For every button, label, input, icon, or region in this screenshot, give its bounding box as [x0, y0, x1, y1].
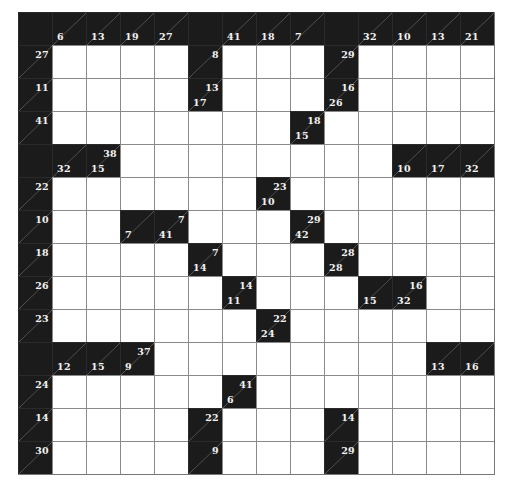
entry-cell[interactable]: [460, 111, 494, 144]
entry-cell[interactable]: [426, 243, 460, 276]
entry-cell[interactable]: [392, 408, 426, 441]
entry-cell[interactable]: [222, 408, 256, 441]
entry-cell[interactable]: [222, 144, 256, 177]
entry-cell[interactable]: [154, 177, 188, 210]
entry-cell[interactable]: [460, 78, 494, 111]
entry-cell[interactable]: [324, 111, 358, 144]
entry-cell[interactable]: [86, 78, 120, 111]
entry-cell[interactable]: [256, 375, 290, 408]
entry-cell[interactable]: [120, 111, 154, 144]
entry-cell[interactable]: [358, 408, 392, 441]
entry-cell[interactable]: [358, 210, 392, 243]
entry-cell[interactable]: [358, 144, 392, 177]
entry-cell[interactable]: [426, 45, 460, 78]
entry-cell[interactable]: [188, 177, 222, 210]
entry-cell[interactable]: [86, 243, 120, 276]
entry-cell[interactable]: [460, 276, 494, 309]
entry-cell[interactable]: [460, 243, 494, 276]
entry-cell[interactable]: [324, 144, 358, 177]
entry-cell[interactable]: [392, 78, 426, 111]
entry-cell[interactable]: [358, 111, 392, 144]
entry-cell[interactable]: [426, 210, 460, 243]
entry-cell[interactable]: [120, 276, 154, 309]
entry-cell[interactable]: [52, 276, 86, 309]
entry-cell[interactable]: [358, 45, 392, 78]
entry-cell[interactable]: [392, 111, 426, 144]
entry-cell[interactable]: [154, 441, 188, 474]
entry-cell[interactable]: [120, 309, 154, 342]
entry-cell[interactable]: [52, 177, 86, 210]
entry-cell[interactable]: [290, 342, 324, 375]
entry-cell[interactable]: [426, 309, 460, 342]
entry-cell[interactable]: [86, 276, 120, 309]
entry-cell[interactable]: [154, 276, 188, 309]
entry-cell[interactable]: [154, 243, 188, 276]
entry-cell[interactable]: [120, 78, 154, 111]
entry-cell[interactable]: [154, 111, 188, 144]
entry-cell[interactable]: [290, 408, 324, 441]
entry-cell[interactable]: [188, 375, 222, 408]
entry-cell[interactable]: [256, 111, 290, 144]
entry-cell[interactable]: [290, 243, 324, 276]
entry-cell[interactable]: [426, 375, 460, 408]
entry-cell[interactable]: [86, 177, 120, 210]
entry-cell[interactable]: [52, 111, 86, 144]
entry-cell[interactable]: [290, 309, 324, 342]
entry-cell[interactable]: [290, 276, 324, 309]
entry-cell[interactable]: [256, 441, 290, 474]
entry-cell[interactable]: [392, 342, 426, 375]
entry-cell[interactable]: [324, 309, 358, 342]
entry-cell[interactable]: [120, 408, 154, 441]
entry-cell[interactable]: [460, 309, 494, 342]
entry-cell[interactable]: [460, 210, 494, 243]
entry-cell[interactable]: [120, 45, 154, 78]
entry-cell[interactable]: [52, 243, 86, 276]
entry-cell[interactable]: [324, 276, 358, 309]
entry-cell[interactable]: [392, 309, 426, 342]
entry-cell[interactable]: [154, 342, 188, 375]
entry-cell[interactable]: [358, 78, 392, 111]
entry-cell[interactable]: [426, 111, 460, 144]
entry-cell[interactable]: [290, 45, 324, 78]
entry-cell[interactable]: [222, 342, 256, 375]
entry-cell[interactable]: [154, 78, 188, 111]
entry-cell[interactable]: [290, 441, 324, 474]
entry-cell[interactable]: [358, 309, 392, 342]
entry-cell[interactable]: [188, 309, 222, 342]
entry-cell[interactable]: [256, 342, 290, 375]
entry-cell[interactable]: [222, 309, 256, 342]
entry-cell[interactable]: [120, 144, 154, 177]
entry-cell[interactable]: [426, 177, 460, 210]
entry-cell[interactable]: [426, 408, 460, 441]
entry-cell[interactable]: [392, 243, 426, 276]
entry-cell[interactable]: [392, 441, 426, 474]
entry-cell[interactable]: [188, 342, 222, 375]
entry-cell[interactable]: [52, 210, 86, 243]
entry-cell[interactable]: [392, 45, 426, 78]
entry-cell[interactable]: [256, 78, 290, 111]
entry-cell[interactable]: [460, 441, 494, 474]
entry-cell[interactable]: [154, 45, 188, 78]
entry-cell[interactable]: [154, 144, 188, 177]
entry-cell[interactable]: [460, 375, 494, 408]
entry-cell[interactable]: [324, 375, 358, 408]
entry-cell[interactable]: [290, 177, 324, 210]
entry-cell[interactable]: [188, 276, 222, 309]
entry-cell[interactable]: [290, 144, 324, 177]
entry-cell[interactable]: [52, 78, 86, 111]
entry-cell[interactable]: [358, 177, 392, 210]
entry-cell[interactable]: [52, 45, 86, 78]
entry-cell[interactable]: [154, 375, 188, 408]
entry-cell[interactable]: [120, 243, 154, 276]
entry-cell[interactable]: [154, 408, 188, 441]
entry-cell[interactable]: [52, 309, 86, 342]
entry-cell[interactable]: [256, 210, 290, 243]
entry-cell[interactable]: [392, 210, 426, 243]
entry-cell[interactable]: [86, 309, 120, 342]
entry-cell[interactable]: [188, 144, 222, 177]
entry-cell[interactable]: [392, 375, 426, 408]
entry-cell[interactable]: [256, 144, 290, 177]
entry-cell[interactable]: [392, 177, 426, 210]
entry-cell[interactable]: [52, 441, 86, 474]
entry-cell[interactable]: [188, 111, 222, 144]
